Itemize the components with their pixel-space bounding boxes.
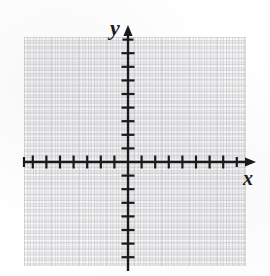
y-axis-label: y	[110, 17, 120, 39]
y-axis-arrowhead	[123, 25, 132, 36]
axes-drawing	[0, 0, 270, 276]
coordinate-plane-figure: y x	[0, 0, 270, 276]
x-axis-label: x	[243, 168, 253, 188]
x-axis-arrowhead	[245, 157, 256, 166]
